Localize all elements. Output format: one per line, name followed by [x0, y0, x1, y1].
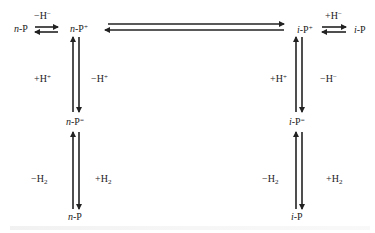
equilibrium-arrow-np-npplus [35, 27, 58, 32]
species-n-p-bottom: n-P [68, 212, 82, 222]
equilibrium-arrow-ipplus-ip [322, 27, 346, 32]
label-right-upper-right: −H− [320, 74, 337, 84]
label-left-upper-right: −H+ [91, 74, 108, 84]
label-left-upper-left: +H+ [34, 74, 51, 84]
species-i-p-bottom: i-P [291, 212, 303, 222]
equilibrium-arrow-ipplus-ipeq [296, 37, 302, 112]
label-top-left: −H− [34, 11, 51, 21]
equilibrium-arrow-npplus-ipplus [105, 24, 284, 30]
species-i-p-plus: i-P+ [297, 25, 313, 35]
equilibrium-arrow-npeq-npbottom [73, 132, 79, 209]
equilibrium-arrow-ipeq-ipbottom [296, 132, 302, 209]
equilibrium-arrow-npplus-npeq [73, 37, 79, 112]
label-top-right: +H− [325, 11, 342, 21]
species-n-p-eq: n-P= [66, 117, 84, 127]
species-i-p-eq: i-P= [289, 117, 305, 127]
species-n-p-left: n-P [14, 24, 28, 34]
label-left-lower-left: −H2 [31, 174, 47, 184]
label-right-upper-left: +H+ [270, 74, 287, 84]
label-right-lower-left: −H2 [262, 174, 278, 184]
species-i-p-right: i-P [354, 25, 366, 35]
label-right-lower-right: +H2 [326, 174, 342, 184]
species-n-p-plus: n-P+ [70, 24, 88, 34]
label-left-lower-right: +H2 [95, 174, 111, 184]
reaction-arrows [0, 0, 375, 233]
cropped-caption-line [10, 226, 370, 230]
